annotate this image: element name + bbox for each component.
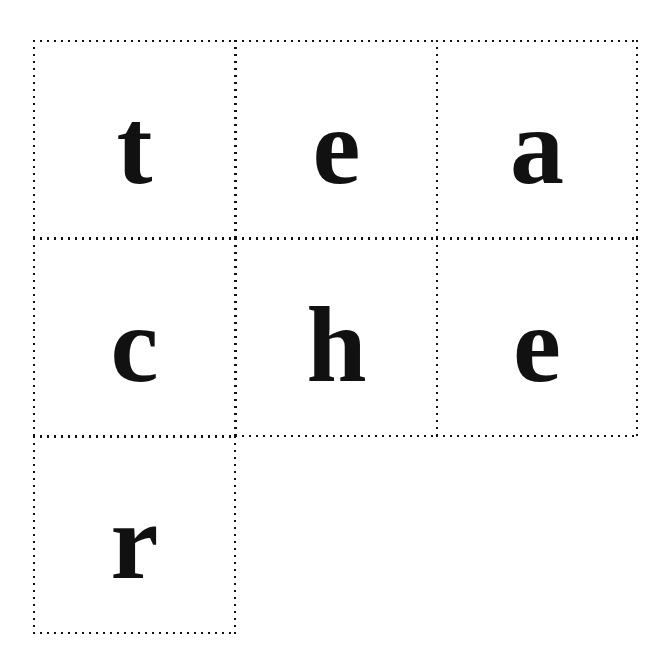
letter-cell-r1c1[interactable]: t <box>33 40 236 239</box>
letter-cell-r3c1[interactable]: r <box>33 436 236 634</box>
letter-glyph: e <box>235 40 438 239</box>
letter-glyph: c <box>33 238 236 437</box>
letter-cell-r2c2[interactable]: h <box>235 238 438 437</box>
letter-glyph: t <box>33 40 236 239</box>
letter-cell-r1c2[interactable]: e <box>235 40 438 239</box>
word-grid-worksheet: t e a c h <box>0 0 668 646</box>
letter-glyph: h <box>235 238 438 437</box>
letter-grid: t e a c h <box>33 40 638 634</box>
letter-glyph: e <box>436 238 638 437</box>
letter-glyph: a <box>436 40 638 239</box>
letter-cell-r2c3[interactable]: e <box>436 238 638 437</box>
letter-glyph: r <box>33 436 236 634</box>
letter-cell-r2c1[interactable]: c <box>33 238 236 437</box>
letter-cell-r1c3[interactable]: a <box>436 40 638 239</box>
